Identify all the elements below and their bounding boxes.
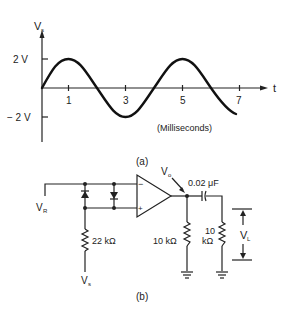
capacitor-label: 0.02 μF (188, 178, 219, 188)
resistor-10k-a (184, 222, 190, 246)
r3-label-bottom: kΩ (202, 236, 214, 246)
vr-subscript: R (43, 208, 48, 214)
x-axis-arrow-icon (260, 86, 268, 91)
circuit-fills (81, 182, 246, 259)
x-axis-label: t (273, 82, 276, 94)
r3-label-top: 10 (205, 226, 215, 236)
opamp-plus: + (138, 204, 143, 213)
x-tick-1: 1 (66, 95, 72, 106)
figure: V s t 2 V − 2 V 1 3 5 7 (Milliseconds) (… (0, 0, 286, 314)
resistor-10k-b (219, 222, 225, 246)
tick-label-pos: 2 V (13, 54, 28, 65)
circuit-diagram (45, 175, 252, 278)
r1-label: 22 kΩ (92, 236, 116, 246)
caption-a: (a) (136, 156, 148, 167)
vs-subscript: s (88, 281, 91, 287)
units-label: (Milliseconds) (157, 123, 212, 133)
r2-label: 10 kΩ (153, 236, 177, 246)
vo-subscript: o (168, 172, 172, 178)
vs-label: V (81, 275, 88, 286)
y-axis-subscript: s (41, 27, 44, 33)
x-tick-7: 7 (236, 95, 242, 106)
opamp-minus: − (138, 179, 143, 189)
x-tick-3: 3 (123, 95, 129, 106)
x-tick-5: 5 (180, 95, 186, 106)
waveform-plot: V s t 2 V − 2 V 1 3 5 7 (Milliseconds) (7, 20, 276, 142)
resistor-22k (82, 229, 88, 251)
tick-label-neg: − 2 V (7, 112, 31, 123)
vo-label: V (161, 166, 168, 177)
diode-1-icon (81, 191, 89, 198)
caption-b: (b) (136, 291, 148, 302)
vr-label: V (36, 202, 43, 213)
vl-subscript: L (247, 236, 251, 242)
diode-2-icon (110, 192, 118, 199)
